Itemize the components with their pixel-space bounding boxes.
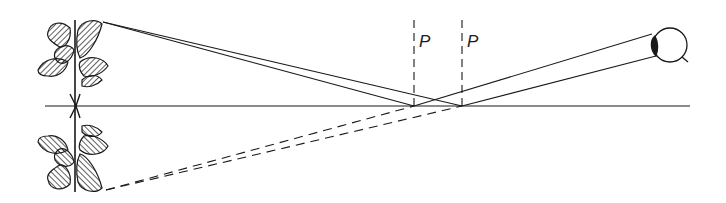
reflected-rays [414,34,656,106]
incident-rays [103,22,462,106]
plant-icon [38,20,108,106]
eye-icon [651,28,688,62]
reflection-diagram [0,0,726,203]
normal-label-right: P [467,32,478,52]
normal-label-left: P [419,32,430,52]
reflected-plant-icon [38,106,108,192]
virtual-rays [106,106,462,190]
